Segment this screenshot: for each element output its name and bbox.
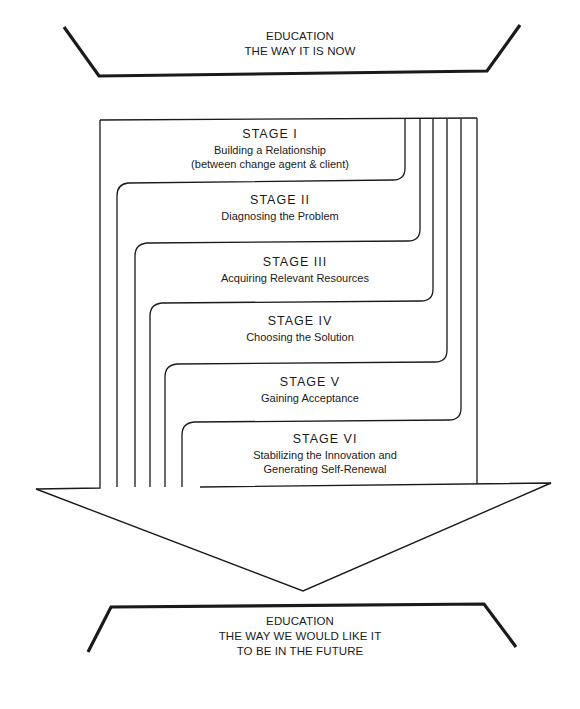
- stage-3-desc-line-1: Acquiring Relevant Resources: [190, 271, 400, 285]
- stage-6-title: STAGE VI: [210, 431, 440, 448]
- stage-1: STAGE I Building a Relationship (between…: [170, 126, 370, 171]
- stage-5: STAGE V Gaining Acceptance: [210, 374, 410, 405]
- bottom-box-label: EDUCATION THE WAY WE WOULD LIKE IT TO BE…: [170, 614, 430, 659]
- stage-1-desc-line-2: (between change agent & client): [170, 157, 370, 171]
- top-box-label: EDUCATION THE WAY IT IS NOW: [180, 29, 420, 59]
- stage-2: STAGE II Diagnosing the Problem: [180, 192, 380, 223]
- stage-6-desc-line-2: Generating Self-Renewal: [210, 462, 440, 476]
- stage-6-desc-line-1: Stabilizing the Innovation and: [210, 448, 440, 462]
- stage-4-title: STAGE IV: [200, 313, 400, 330]
- stage-5-title: STAGE V: [210, 374, 410, 391]
- arrow-head: [36, 483, 551, 591]
- stage-1-left-edge: [36, 120, 100, 489]
- stage-2-title: STAGE II: [180, 192, 380, 209]
- stage-5-desc-line-1: Gaining Acceptance: [210, 391, 410, 405]
- top-box-line-1: EDUCATION: [180, 29, 420, 44]
- bottom-box-line-2: THE WAY WE WOULD LIKE IT: [170, 629, 430, 644]
- stage-4: STAGE IV Choosing the Solution: [200, 313, 400, 344]
- stage-1-desc-line-1: Building a Relationship: [170, 143, 370, 157]
- stage-2-desc-line-1: Diagnosing the Problem: [180, 209, 380, 223]
- bottom-box-line-3: TO BE IN THE FUTURE: [170, 644, 430, 659]
- stage-4-desc-line-1: Choosing the Solution: [200, 330, 400, 344]
- stage-flow-diagram: [0, 0, 580, 709]
- top-box-line-2: THE WAY IT IS NOW: [180, 44, 420, 59]
- stage-6: STAGE VI Stabilizing the Innovation and …: [210, 431, 440, 476]
- stage-3: STAGE III Acquiring Relevant Resources: [190, 254, 400, 285]
- stage-1-title: STAGE I: [170, 126, 370, 143]
- stage-3-title: STAGE III: [190, 254, 400, 271]
- bottom-box-line-1: EDUCATION: [170, 614, 430, 629]
